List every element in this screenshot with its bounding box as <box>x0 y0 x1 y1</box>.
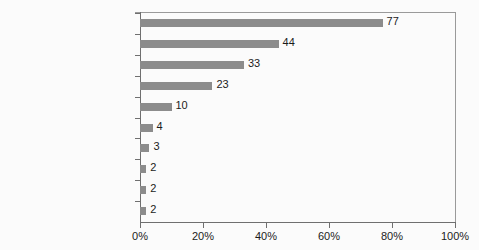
bar-chart: 2Plants and paintings2Office furniture2P… <box>0 0 479 250</box>
x-axis-tick <box>203 223 204 228</box>
x-axis-tick-label: 80% <box>381 230 403 243</box>
y-axis-tick <box>135 180 140 181</box>
chart-row: 77Pens/pencils <box>140 13 455 34</box>
category-label-wrap: Notepads <box>140 55 455 76</box>
y-axis-tick <box>135 118 140 119</box>
x-axis-tick-label: 100% <box>441 230 469 243</box>
chart-row: 44Post-its <box>140 34 455 55</box>
category-label-wrap: Plants and paintings <box>140 201 455 222</box>
x-axis-tick <box>140 223 141 228</box>
chart-row: 10Letterhead and envelopes <box>140 97 455 118</box>
category-label-wrap: Office furniture <box>140 180 455 201</box>
y-axis-tick <box>135 55 140 56</box>
category-label-wrap: Printer paper <box>140 76 455 97</box>
x-axis-tick <box>392 223 393 228</box>
x-axis-tick-label: 40% <box>255 230 277 243</box>
category-label-wrap: Letterhead and envelopes <box>140 97 455 118</box>
chart-row: 4Mouse pads <box>140 118 455 139</box>
y-axis-tick <box>135 97 140 98</box>
category-label-wrap: Post-its <box>140 34 455 55</box>
y-axis-tick <box>135 159 140 160</box>
x-axis-tick-label: 0% <box>132 230 148 243</box>
chart-row: 2Office furniture <box>140 180 455 201</box>
x-axis-tick <box>329 223 330 228</box>
y-axis-tick <box>135 76 140 77</box>
x-axis-tick-label: 20% <box>192 230 214 243</box>
chart-row: 3Computers <box>140 138 455 159</box>
category-label-wrap: Mouse pads <box>140 118 455 139</box>
y-axis-tick <box>135 138 140 139</box>
category-label-wrap: Computers <box>140 138 455 159</box>
chart-row: 2Plants and paintings <box>140 201 455 222</box>
chart-row: 23Printer paper <box>140 76 455 97</box>
x-axis-tick-label: 60% <box>318 230 340 243</box>
plot-area: 2Plants and paintings2Office furniture2P… <box>140 13 455 222</box>
y-axis-tick <box>135 201 140 202</box>
category-label-wrap: Pens/pencils <box>140 13 455 34</box>
x-axis-line <box>140 222 456 223</box>
x-axis-tick <box>455 223 456 228</box>
category-label-wrap: Phones <box>140 159 455 180</box>
chart-row: 2Phones <box>140 159 455 180</box>
chart-row: 33Notepads <box>140 55 455 76</box>
y-axis-tick <box>135 34 140 35</box>
x-axis-tick <box>266 223 267 228</box>
y-axis-tick <box>135 13 140 14</box>
plot-frame-right <box>455 12 456 223</box>
